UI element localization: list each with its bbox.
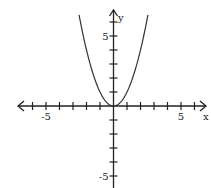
x-tick-label: -5 — [41, 111, 51, 122]
x-tick-label: 5 — [178, 111, 184, 122]
x-axis-label: x — [203, 111, 209, 122]
y-tick-label: 5 — [102, 31, 108, 42]
y-tick-label: -5 — [99, 171, 109, 182]
y-axis-label: y — [117, 12, 124, 23]
axes — [18, 10, 206, 188]
graph-plot: -555-5 x y — [0, 0, 211, 188]
